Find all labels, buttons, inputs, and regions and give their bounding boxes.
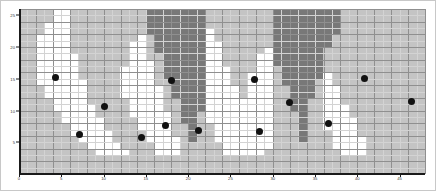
x-tick-mark — [146, 174, 147, 177]
figure-container: 510152025051015202530354045 — [0, 0, 436, 191]
y-tick-label: 5 — [1, 140, 15, 145]
y-axis-line — [19, 9, 21, 174]
y-tick-mark — [16, 47, 19, 48]
gridline-vertical — [425, 9, 426, 174]
y-tick-mark — [16, 110, 19, 111]
y-tick-mark — [16, 78, 19, 79]
x-tick-mark — [104, 174, 105, 177]
x-tick-mark — [400, 174, 401, 177]
y-tick-mark — [16, 142, 19, 143]
y-tick-label: 25 — [1, 13, 15, 18]
y-tick-label: 15 — [1, 76, 15, 81]
y-tick-mark — [16, 15, 19, 16]
y-tick-label: 20 — [1, 45, 15, 50]
heatmap-cell-grid — [19, 9, 425, 174]
x-tick-mark — [357, 174, 358, 177]
heatmap-plot-area[interactable] — [19, 9, 425, 174]
x-tick-mark — [19, 174, 20, 177]
y-tick-label: 10 — [1, 108, 15, 113]
x-tick-mark — [273, 174, 274, 177]
x-tick-mark — [61, 174, 62, 177]
x-tick-mark — [230, 174, 231, 177]
x-axis-line — [19, 173, 425, 175]
x-tick-mark — [315, 174, 316, 177]
x-tick-mark — [188, 174, 189, 177]
